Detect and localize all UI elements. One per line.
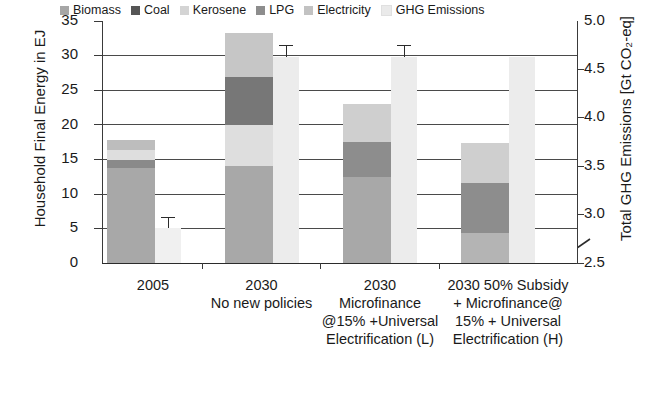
gridline-30: [103, 55, 577, 56]
gridline-20: [103, 124, 577, 125]
x-tick-mark-3: [439, 263, 440, 269]
legend-swatch-kerosene: [180, 6, 189, 15]
ghg-bar-2030-microfinance: [391, 57, 417, 263]
chart-figure: Biomass Coal Kerosene LPG Electricity GH…: [0, 0, 660, 397]
x-label-2030-subsidy-line-1: 2030 50% Subsidy: [440, 276, 576, 294]
bar-segment-biomass-2030-microfinance: [343, 177, 391, 263]
x-label-2030-microfinance-line-3: @15% +Universal: [321, 312, 439, 330]
y-tick-mark-left-15: [94, 159, 102, 160]
ghg-bar-2030-subsidy: [509, 57, 535, 263]
legend-label-coal: Coal: [144, 4, 170, 17]
x-label-2030-microfinance-line-2: Microfinance: [321, 294, 439, 312]
y-tick-left-20: 20: [38, 118, 78, 130]
x-label-2030-subsidy: 2030 50% Subsidy + Microfinance@ 15% + U…: [440, 276, 576, 348]
x-label-2030-microfinance: 2030 Microfinance @15% +Universal Electr…: [321, 276, 439, 348]
x-label-2030-microfinance-line-1: 2030: [321, 276, 439, 294]
y-tick-left-30: 30: [38, 48, 78, 60]
ghg-bar-2005: [155, 228, 181, 263]
bar-segment-biomass-2030-subsidy: [461, 233, 509, 263]
x-label-2030-subsidy-line-3: 15% + Universal: [440, 312, 576, 330]
legend-item-ghg-emissions: GHG Emissions: [381, 4, 485, 17]
bar-segment-electricity-2030-subsidy: [461, 143, 509, 183]
bar-segment-biomass-2030-nonew: [225, 166, 273, 263]
x-label-2030-no-new-policies: 2030 No new policies: [203, 276, 320, 312]
bar-segment-electricity-2005: [107, 140, 155, 150]
bar-segment-electricity-2030-nonew: [225, 33, 273, 77]
x-axis-line: [102, 263, 576, 264]
y-tick-right-3.0: 3.0: [584, 207, 628, 219]
legend-item-lpg: LPG: [256, 4, 294, 17]
y-tick-left-25: 25: [38, 83, 78, 95]
legend-item-kerosene: Kerosene: [180, 4, 247, 17]
x-tick-mark-2: [320, 263, 321, 269]
legend-label-lpg: LPG: [269, 4, 294, 17]
gridline-25: [103, 90, 577, 91]
y-tick-left-15: 15: [38, 152, 78, 164]
legend-swatch-coal: [131, 6, 140, 15]
y-tick-left-0: 0: [38, 256, 78, 268]
legend-swatch-lpg: [256, 6, 265, 15]
legend-label-electricity: Electricity: [317, 4, 370, 17]
legend-item-coal: Coal: [131, 4, 170, 17]
bar-segment-biomass-2005: [107, 168, 155, 263]
y-tick-right-3.5: 3.5: [584, 159, 628, 171]
y-tick-mark-left-35: [94, 21, 102, 22]
y-tick-mark-left-25: [94, 90, 102, 91]
ghg-bar-2030-nonew: [273, 57, 299, 263]
x-label-2030-microfinance-line-4: Electrification (L): [321, 330, 439, 348]
legend-label-kerosene: Kerosene: [193, 4, 247, 17]
legend-label-biomass: Biomass: [73, 4, 121, 17]
error-bar-cap-2030-nonew: [279, 45, 293, 46]
legend-swatch-ghg-emissions: [381, 5, 392, 16]
y-tick-mark-left-10: [94, 194, 102, 195]
x-label-2005-line-1: 2005: [104, 276, 202, 294]
x-tick-mark-1: [202, 263, 203, 269]
bar-segment-lpg-2030-subsidy: [461, 183, 509, 233]
legend-item-electricity: Electricity: [304, 4, 370, 17]
y-tick-mark-right-2.5: [576, 263, 584, 264]
y-tick-mark-left-20: [94, 124, 102, 125]
y-tick-left-35: 35: [38, 14, 78, 26]
x-label-2030-no-new-policies-line-2: No new policies: [203, 294, 320, 312]
y-tick-right-4.0: 4.0: [584, 110, 628, 122]
plot-area: [102, 21, 578, 263]
legend-swatch-electricity: [304, 6, 313, 15]
bar-segment-lpg-2030-microfinance: [343, 142, 391, 177]
legend-label-ghg-emissions: GHG Emissions: [396, 4, 485, 17]
error-bar-line-2030-microfinance: [404, 46, 405, 57]
x-label-2030-subsidy-line-4: Electrification (H): [440, 330, 576, 348]
error-bar-line-2005: [168, 218, 169, 228]
error-bar-cap-2030-microfinance: [397, 45, 411, 46]
bar-segment-coal-2030-nonew: [225, 77, 273, 125]
bar-segment-electricity-2030-microfinance: [343, 104, 391, 142]
y-tick-left-5: 5: [38, 221, 78, 233]
x-label-2030-subsidy-line-2: + Microfinance@: [440, 294, 576, 312]
x-label-2005: 2005: [104, 276, 202, 294]
y-tick-right-4.5: 4.5: [584, 62, 628, 74]
y-tick-right-5.0: 5.0: [584, 14, 628, 26]
error-bar-line-2030-nonew: [286, 46, 287, 57]
bar-segment-kerosene-2005: [107, 150, 155, 160]
y-tick-left-10: 10: [38, 187, 78, 199]
error-bar-cap-2005: [161, 217, 175, 218]
bar-segment-coal-2005: [107, 160, 155, 168]
chart-legend: Biomass Coal Kerosene LPG Electricity GH…: [60, 2, 620, 18]
x-label-2030-no-new-policies-line-1: 2030: [203, 276, 320, 294]
y-tick-mark-left-30: [94, 55, 102, 56]
bar-segment-kerosene-2030-nonew: [225, 125, 273, 166]
y-tick-mark-left-5: [94, 228, 102, 229]
